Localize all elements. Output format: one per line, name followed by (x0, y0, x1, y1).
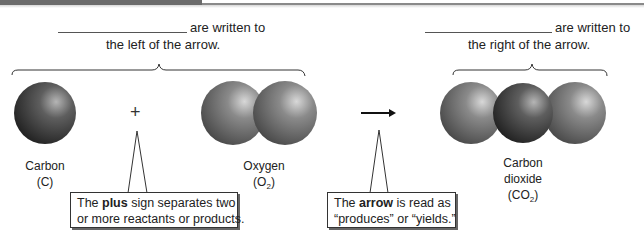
carbon-dioxide-molecule-icon (440, 82, 606, 144)
arrow-callout: The arrow is read as “produces” or “yiel… (327, 192, 456, 228)
reactants-brace-icon (12, 64, 305, 76)
carbon-name: Carbon (15, 158, 75, 174)
arrow-callout-line2: “produces” or “yields.” (334, 211, 449, 227)
oxygen-name: Oxygen (234, 158, 294, 174)
oxygen-label: Oxygen (O2) (234, 158, 294, 195)
carbon-dioxide-name-line1: Carbon (488, 155, 558, 171)
carbon-label: Carbon (C) (15, 158, 75, 190)
carbon-dioxide-formula: (CO2) (488, 187, 558, 208)
plus-sign: + (130, 103, 141, 121)
yields-arrow-icon (361, 109, 396, 117)
arrow-callout-line1: The arrow is read as (334, 195, 449, 211)
carbon-dioxide-name-line2: dioxide (488, 171, 558, 187)
oxygen-formula: (O2) (234, 174, 294, 195)
carbon-dioxide-label: Carbon dioxide (CO2) (488, 155, 558, 208)
arrow-callout-pointer (370, 130, 388, 193)
carbon-formula: (C) (15, 174, 75, 190)
plus-sign-callout: The plus sign separates two or more reac… (70, 192, 238, 228)
plus-callout-line1: The plus sign separates two (77, 195, 231, 211)
plus-callout-pointer (128, 131, 147, 193)
carbon-atom-icon (14, 82, 76, 144)
oxygen-molecule-icon (201, 81, 317, 145)
products-brace-icon (453, 64, 607, 76)
plus-callout-line2: or more reactants or products. (77, 211, 231, 227)
